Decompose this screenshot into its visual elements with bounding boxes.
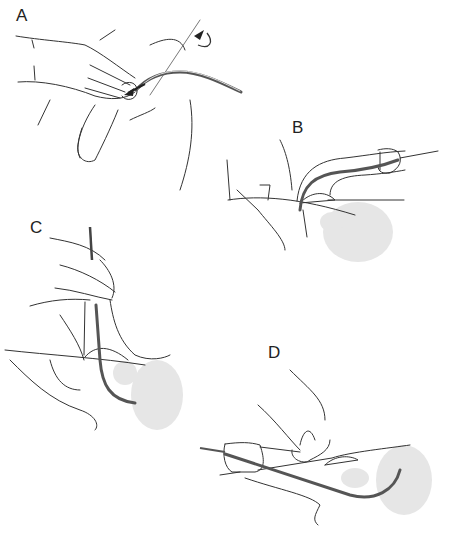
illustration <box>0 0 449 534</box>
panel-c-drawing <box>5 227 183 430</box>
panel-a-drawing <box>16 20 241 190</box>
panel-b-drawing <box>227 140 438 262</box>
panel-d-drawing <box>200 370 432 525</box>
